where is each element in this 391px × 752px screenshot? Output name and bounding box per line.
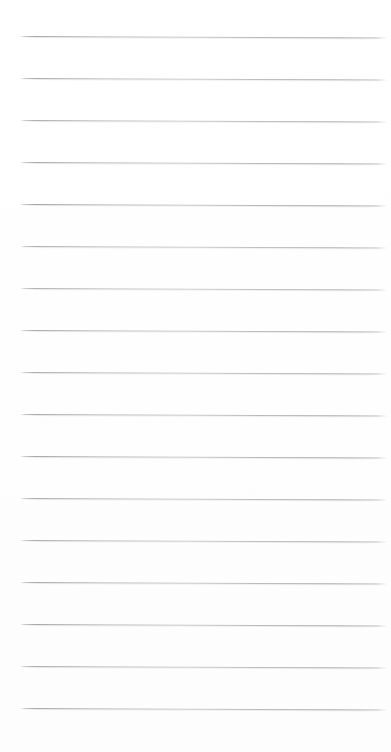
bottom-margin bbox=[0, 710, 391, 752]
ruled-line bbox=[20, 498, 387, 500]
ruled-line bbox=[20, 204, 387, 206]
ruled-line bbox=[20, 330, 387, 332]
ruled-line bbox=[20, 78, 387, 80]
ruled-line bbox=[20, 120, 387, 122]
ruled-line bbox=[20, 624, 387, 626]
ruled-line bbox=[20, 36, 387, 38]
ruled-line bbox=[20, 288, 387, 290]
ruled-line bbox=[20, 456, 387, 458]
ruled-line bbox=[20, 162, 387, 164]
ruled-lines-group bbox=[0, 0, 391, 752]
ruled-line bbox=[20, 414, 387, 416]
ruled-line bbox=[20, 540, 387, 542]
ruled-line bbox=[20, 372, 387, 374]
ruled-line bbox=[20, 582, 387, 584]
ruled-line bbox=[20, 666, 387, 668]
lined-page bbox=[0, 0, 391, 752]
ruled-line bbox=[20, 246, 387, 248]
